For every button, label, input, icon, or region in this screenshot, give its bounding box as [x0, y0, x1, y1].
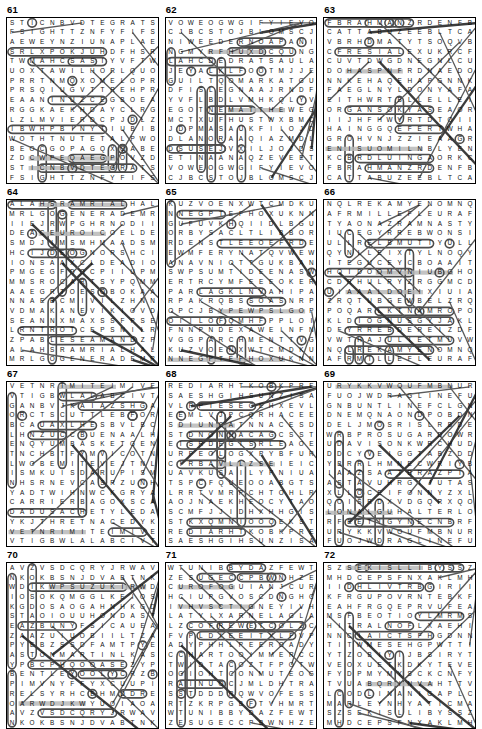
letter-cell: N [138, 478, 148, 488]
letter-cell: Z [7, 631, 17, 641]
letter-cell: K [276, 382, 286, 392]
letter-cell: O [37, 612, 47, 622]
letter-cell: E [395, 297, 405, 307]
puzzle-grid[interactable]: STICNBVDTEGRATSFSIGHTTZNFYFIFSAEWEYNZIUN… [6, 17, 159, 184]
letter-cell: A [354, 507, 364, 517]
puzzle-grid[interactable]: WTUNIBBYDAZFEWTZESUGECCPBWNHZECUROFOGUIA… [165, 562, 318, 729]
letter-cell: R [395, 219, 405, 229]
letter-cell: N [445, 229, 455, 239]
letter-cell: L [206, 86, 216, 96]
letter-cell: M [27, 57, 37, 67]
letter-cell: A [57, 306, 67, 316]
letter-cell: R [276, 86, 286, 96]
letter-cell: E [276, 105, 286, 115]
letter-cell: C [87, 268, 97, 278]
letter-cell: C [37, 660, 47, 670]
letter-cell: U [324, 239, 334, 249]
letter-grid: VETNRIMITEIMIVEVTIGBWLALABCIVTGANBVJKAIA… [7, 382, 158, 547]
letter-cell: S [117, 248, 127, 258]
letter-cell: A [365, 335, 375, 345]
letter-cell: K [296, 200, 306, 210]
letter-cell: L [17, 345, 27, 355]
letter-cell: I [206, 709, 216, 719]
letter-cell: G [47, 144, 57, 154]
letter-cell: N [445, 527, 455, 537]
letter-cell: A [266, 478, 276, 488]
letter-cell: P [47, 125, 57, 135]
letter-cell: E [27, 219, 37, 229]
letter-cell: N [77, 355, 87, 365]
letter-cell: T [286, 680, 296, 690]
letter-cell: E [138, 621, 148, 631]
letter-cell: E [138, 96, 148, 106]
letter-cell: E [405, 28, 415, 38]
letter-cell: E [375, 660, 385, 670]
letter-cell: P [276, 37, 286, 47]
letter-cell: V [138, 391, 148, 401]
letter-cell: Z [166, 573, 176, 583]
puzzle-grid[interactable]: AVZVSDCQRYJRWAVNKOKBSNJDVABTNKWDIKWPSUZU… [6, 562, 159, 729]
letter-cell: P [425, 641, 435, 651]
letter-cell: X [354, 660, 364, 670]
letter-cell: A [385, 37, 395, 47]
letter-cell: E [148, 316, 158, 326]
puzzle-grid[interactable]: VOWEOGWGIFYIEVOCJBCSTOJBLOMSCJNIWEEDERNO… [165, 17, 318, 184]
letter-cell: I [375, 650, 385, 660]
letter-cell: P [196, 326, 206, 336]
letter-cell: G [286, 612, 296, 622]
letter-cell: N [67, 718, 77, 728]
letter-cell: A [97, 641, 107, 651]
letter-cell: R [67, 229, 77, 239]
letter-cell: A [365, 173, 375, 183]
puzzle-grid[interactable]: URYKKVWOUFMBNURFUOJWDRAGLINEFUGNBUNTLINE… [323, 381, 476, 548]
letter-cell: T [375, 401, 385, 411]
puzzle-grid[interactable]: VETNRIMITEIMIVEVTIGBWLALABCIVTGANBVJKAIA… [6, 381, 159, 548]
puzzle-grid[interactable]: REDIARHTKOBKPRESAESHGIHSUNZISAVLPPIESECE… [165, 381, 318, 548]
letter-cell: E [77, 335, 87, 345]
letter-cell: A [435, 258, 445, 268]
letter-cell: T [236, 420, 246, 430]
letter-cell: G [425, 689, 435, 699]
letter-cell: M [37, 115, 47, 125]
letter-cell: I [128, 527, 138, 537]
puzzle-number: 71 [165, 549, 318, 562]
letter-cell: A [395, 689, 405, 699]
letter-cell: I [77, 527, 87, 537]
letter-cell: V [296, 163, 306, 173]
letter-cell: O [87, 670, 97, 680]
letter-cell: L [87, 391, 97, 401]
puzzle-number: 62 [165, 4, 318, 17]
letter-cell: L [196, 316, 206, 326]
letter-cell: E [276, 650, 286, 660]
letter-cell: Y [276, 602, 286, 612]
letter-cell: N [266, 335, 276, 345]
puzzle-grid[interactable]: KUZVOENXWTCMDKUNNEGPTEFHOXUKNNGUFUVKHQII… [165, 199, 318, 366]
letter-cell: T [344, 335, 354, 345]
letter-cell: M [17, 268, 27, 278]
letter-cell: A [186, 134, 196, 144]
letter-cell: Y [216, 306, 226, 316]
letter-cell: Q [385, 125, 395, 135]
letter-cell: T [206, 660, 216, 670]
letter-cell: L [276, 306, 286, 316]
puzzle-grid[interactable]: ALAHSRAMRIALHALMRLGOGENERADEMRIIEJRWPGHR… [6, 199, 159, 366]
letter-cell: L [7, 459, 17, 469]
letter-cell: A [206, 382, 216, 392]
letter-cell: N [47, 76, 57, 86]
letter-cell: B [138, 144, 148, 154]
puzzle-grid[interactable]: FBRAHMANZRDENFBCATTABUZEEBLTCAVBRHDMATYT… [323, 17, 476, 184]
letter-cell: W [306, 248, 316, 258]
letter-cell: O [226, 76, 236, 86]
letter-cell: D [128, 115, 138, 125]
letter-cell: G [37, 28, 47, 38]
letter-cell: E [128, 355, 138, 365]
letter-cell: E [455, 96, 465, 106]
letter-cell: O [77, 660, 87, 670]
letter-cell: R [344, 18, 354, 28]
letter-cell: E [148, 641, 158, 651]
letter-cell: A [306, 57, 316, 67]
puzzle-grid[interactable]: NQLREKAMYENOMNQAFRMILLEFLEURAFTYAONAZRAM… [323, 199, 476, 366]
letter-cell: A [37, 306, 47, 316]
puzzle-grid[interactable]: SZSEKISLLIBYSSZMHDCEPSFNXAKLMHIIDHLIVTRB… [323, 562, 476, 729]
letter-cell: I [176, 459, 186, 469]
